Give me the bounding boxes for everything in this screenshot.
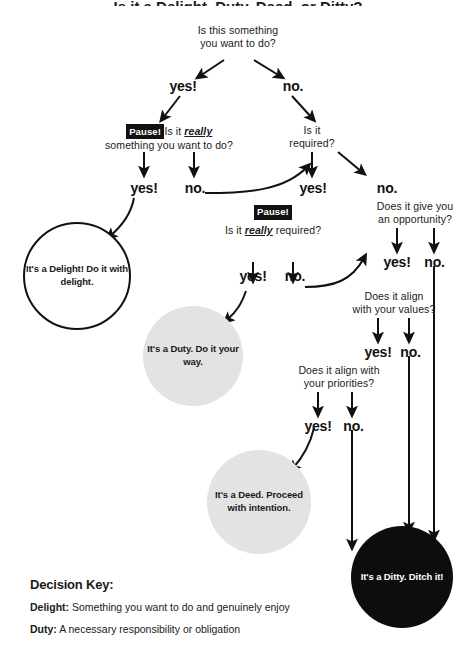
pause-badge-2: Pause! xyxy=(254,205,293,220)
outcome-deed-line3: intention. xyxy=(249,502,291,513)
outcome-ditty-text: It's a Ditty. Ditch it! xyxy=(361,571,444,584)
question-root-line2: you want to do? xyxy=(178,37,298,50)
question-values: Does it align with your values? xyxy=(334,290,454,316)
outcome-delight-text: It's a Delight! Do it with delight. xyxy=(25,263,129,288)
outcome-deed-line1: It's a Deed. xyxy=(215,489,264,500)
pause2-text-b: required? xyxy=(273,224,321,236)
pause2-emphasis: really xyxy=(245,224,273,236)
outcome-duty-line2: Do it xyxy=(195,343,216,354)
pause1-emphasis: really xyxy=(184,125,212,137)
pause2-line1: Is it really required? xyxy=(198,224,348,237)
outcome-delight: It's a Delight! Do it with delight. xyxy=(23,222,131,330)
decision-key-title: Decision Key: xyxy=(30,577,360,592)
answer-required-no[interactable]: no. xyxy=(362,180,412,198)
answer-pause1-no[interactable]: no. xyxy=(170,180,220,198)
outcome-delight-line2: Do it with xyxy=(86,263,128,274)
answer-root-yes[interactable]: yes! xyxy=(158,78,208,96)
decision-key-desc-delight: Something you want to do and genuinely e… xyxy=(69,601,290,613)
outcome-ditty-line1: It's a Ditty. xyxy=(361,571,407,582)
decision-key-row-delight: Delight: Something you want to do and ge… xyxy=(30,601,360,614)
outcome-deed-text: It's a Deed. Proceed with intention. xyxy=(207,489,311,514)
pause2-text-a: Is it xyxy=(225,224,245,236)
decision-key: Decision Key: Delight: Something you wan… xyxy=(30,577,360,644)
outcome-ditty: It's a Ditty. Ditch it! xyxy=(351,526,453,628)
question-priorities: Does it align with your priorities? xyxy=(275,364,403,390)
answer-root-no[interactable]: no. xyxy=(268,78,318,96)
question-opportunity: Does it give you an opportunity? xyxy=(356,200,474,226)
decision-key-row-duty: Duty: A necessary responsibility or obli… xyxy=(30,623,360,636)
outcome-duty-text: It's a Duty. Do it your way. xyxy=(143,343,243,368)
decision-key-desc-duty: A necessary responsibility or obligation xyxy=(57,623,240,635)
answer-pause2-no[interactable]: no. xyxy=(270,268,320,286)
question-pause1: Pause!Is it really something you want to… xyxy=(74,124,264,152)
answer-priorities-no[interactable]: no. xyxy=(331,418,376,436)
pause1-line1: Pause!Is it really xyxy=(74,124,264,139)
question-required-line2: required? xyxy=(272,137,352,150)
outcome-duty-line1: It's a Duty. xyxy=(147,343,193,354)
question-priorities-line2: your priorities? xyxy=(275,377,403,390)
question-priorities-line1: Does it align with xyxy=(275,364,403,377)
question-required-line1: Is it xyxy=(272,124,352,137)
decision-key-term-duty: Duty: xyxy=(30,623,57,635)
outcome-ditty-line2: Ditch it! xyxy=(409,571,443,582)
outcome-delight-line1: It's a Delight! xyxy=(26,263,84,274)
question-opportunity-line1: Does it give you xyxy=(356,200,474,213)
pause1-text-a: Is it xyxy=(164,125,184,137)
question-values-line1: Does it align xyxy=(334,290,454,303)
question-root-line1: Is this something xyxy=(178,24,298,37)
answer-required-yes[interactable]: yes! xyxy=(288,180,338,198)
decision-flowchart: Is this something you want to do? yes! n… xyxy=(0,0,476,647)
question-root: Is this something you want to do? xyxy=(178,24,298,50)
outcome-delight-line3: delight. xyxy=(61,276,94,287)
outcome-deed: It's a Deed. Proceed with intention. xyxy=(207,450,311,554)
pause1-line2: something you want to do? xyxy=(74,139,264,152)
pause-badge-1: Pause! xyxy=(126,124,165,139)
outcome-duty: It's a Duty. Do it your way. xyxy=(143,306,243,406)
question-pause2: Is it really required? xyxy=(198,224,348,237)
answer-pause1-yes[interactable]: yes! xyxy=(119,180,169,198)
answer-opportunity-no[interactable]: no. xyxy=(412,254,457,272)
decision-key-term-delight: Delight: xyxy=(30,601,69,613)
question-values-line2: with your values? xyxy=(334,303,454,316)
answer-values-no[interactable]: no. xyxy=(388,344,433,362)
question-required: Is it required? xyxy=(272,124,352,150)
pause-badge-2-wrap: Pause! xyxy=(243,200,303,220)
question-opportunity-line2: an opportunity? xyxy=(356,213,474,226)
